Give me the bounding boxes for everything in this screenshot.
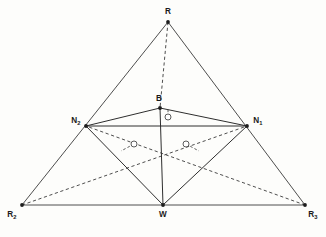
edge-N1-W xyxy=(163,126,247,205)
edge-R2-N1 xyxy=(22,126,247,205)
vertex-label-n2: N2 xyxy=(71,116,81,126)
marker-circle-right xyxy=(183,141,189,147)
vertex-dot-r2 xyxy=(20,203,24,207)
edge-N2-W xyxy=(86,126,163,205)
vertex-dot-w xyxy=(161,203,165,207)
vertex-label-r2: R2 xyxy=(7,210,17,220)
vertex-label-b: B xyxy=(156,94,162,103)
marker-circle-left xyxy=(131,141,137,147)
dashed-edge-group xyxy=(22,22,305,205)
vertex-label-r3: R3 xyxy=(308,210,318,220)
edge-R-R2 xyxy=(22,22,168,205)
vertex-dot-b xyxy=(158,106,162,110)
vertex-label-w: W xyxy=(159,210,167,219)
vertex-dot-n1 xyxy=(245,124,249,128)
diagram-canvas: RN2N1BWR2R3 xyxy=(0,0,326,237)
vertex-dot-r3 xyxy=(303,203,307,207)
vertex-dot-r xyxy=(166,20,170,24)
edge-R3-N2 xyxy=(86,126,305,205)
vertex-dot-group xyxy=(20,20,307,207)
geometry-figure: RN2N1BWR2R3 xyxy=(0,0,326,237)
vertex-label-r: R xyxy=(165,7,171,16)
solid-edge-group xyxy=(22,22,305,205)
vertex-dot-n2 xyxy=(84,124,88,128)
vertex-label-n1: N1 xyxy=(253,116,263,126)
marker-circle-apex xyxy=(165,114,171,120)
